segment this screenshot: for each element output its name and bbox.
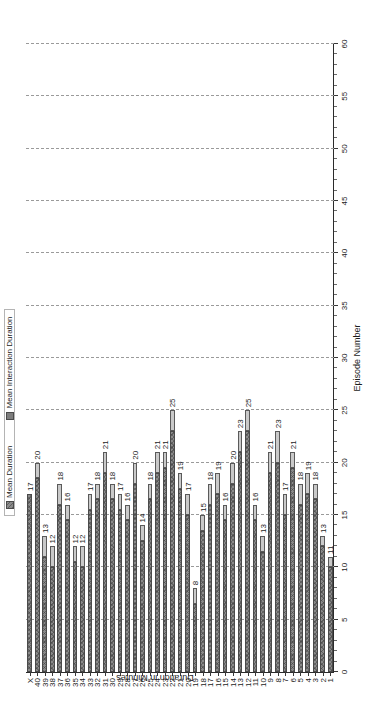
bar-segment-mean-interaction-duration[interactable] — [253, 505, 258, 521]
bar-segment-mean-interaction-duration[interactable] — [42, 536, 47, 557]
bar-segment-mean-duration[interactable] — [73, 562, 78, 672]
bar-segment-mean-interaction-duration[interactable] — [238, 431, 243, 452]
bar-segment-mean-duration[interactable] — [320, 546, 325, 672]
bar-segment-mean-duration[interactable] — [268, 473, 273, 672]
bar-segment-mean-duration[interactable] — [103, 473, 108, 672]
bar-segment-mean-interaction-duration[interactable] — [313, 484, 318, 500]
bar-segment-mean-duration[interactable] — [230, 484, 235, 672]
value-axis-tick-minor — [334, 336, 337, 337]
value-axis-tick-label: 5 — [340, 617, 349, 621]
value-axis-tick-minor — [334, 577, 337, 578]
bar-segment-mean-duration[interactable] — [298, 505, 303, 672]
bar-segment-mean-interaction-duration[interactable] — [193, 588, 198, 604]
bar-segment-mean-interaction-duration[interactable] — [57, 484, 62, 505]
bar-segment-mean-duration[interactable] — [133, 484, 138, 672]
bar-segment-mean-interaction-duration[interactable] — [200, 515, 205, 531]
bar-segment-mean-duration[interactable] — [245, 431, 250, 672]
bar-segment-mean-interaction-duration[interactable] — [133, 463, 138, 484]
bar-segment-mean-interaction-duration[interactable] — [65, 505, 70, 521]
bar-segment-mean-duration[interactable] — [200, 531, 205, 672]
bar-segment-mean-interaction-duration[interactable] — [95, 484, 100, 500]
bar-segment-mean-duration[interactable] — [328, 567, 333, 672]
bar-segment-mean-duration[interactable] — [125, 520, 130, 672]
value-axis-tick-major — [334, 671, 338, 672]
bar-segment-mean-interaction-duration[interactable] — [223, 505, 228, 521]
bar-segment-mean-interaction-duration[interactable] — [125, 505, 130, 521]
bar-segment-mean-interaction-duration[interactable] — [230, 463, 235, 484]
bar-segment-mean-interaction-duration[interactable] — [268, 452, 273, 473]
bar-segment-mean-interaction-duration[interactable] — [50, 546, 55, 567]
bar-segment-mean-interaction-duration[interactable] — [275, 431, 280, 462]
bar-segment-mean-duration[interactable] — [65, 520, 70, 672]
legend-label-mean-duration: Mean Duration — [5, 446, 14, 498]
gridline — [26, 357, 334, 358]
bar-segment-mean-interaction-duration[interactable] — [305, 473, 310, 494]
bar-segment-mean-interaction-duration[interactable] — [88, 494, 93, 510]
bar-segment-mean-interaction-duration[interactable] — [80, 546, 85, 567]
bar-segment-mean-duration[interactable] — [95, 499, 100, 672]
bar-segment-mean-duration[interactable] — [193, 604, 198, 672]
bar-segment-mean-duration[interactable] — [170, 431, 175, 672]
value-axis-tick-major — [334, 43, 338, 44]
category-axis-tick — [285, 672, 286, 676]
value-axis-title: Duration in Minutes — [75, 673, 235, 683]
bar-segment-mean-duration[interactable] — [313, 499, 318, 672]
value-axis-tick-label: 30 — [340, 354, 349, 363]
bar-value-label: 16 — [221, 493, 230, 502]
bar-segment-mean-interaction-duration[interactable] — [320, 536, 325, 546]
bar-segment-mean-interaction-duration[interactable] — [178, 473, 183, 489]
bar-segment-mean-duration[interactable] — [178, 489, 183, 672]
bar-segment-mean-interaction-duration[interactable] — [260, 536, 265, 552]
bar-segment-mean-interaction-duration[interactable] — [185, 494, 190, 515]
bar-segment-mean-duration[interactable] — [118, 510, 123, 672]
bar-segment-mean-duration[interactable] — [88, 510, 93, 672]
bar-segment-mean-duration[interactable] — [57, 505, 62, 672]
bar-segment-mean-duration[interactable] — [260, 552, 265, 672]
bar-segment-mean-duration[interactable] — [238, 452, 243, 672]
bar-value-label: 18 — [206, 472, 215, 481]
category-axis-tick — [52, 672, 53, 676]
bar-segment-mean-duration[interactable] — [148, 499, 153, 672]
bar-segment-mean-interaction-duration[interactable] — [245, 410, 250, 431]
bar-segment-mean-duration[interactable] — [163, 468, 168, 672]
bar-segment-mean-duration[interactable] — [110, 499, 115, 672]
bar-segment-mean-interaction-duration[interactable] — [110, 484, 115, 500]
bar-segment-mean-interaction-duration[interactable] — [290, 452, 295, 468]
bar-segment-mean-duration[interactable] — [305, 494, 310, 672]
bar-segment-mean-duration[interactable] — [215, 494, 220, 672]
bar-segment-mean-duration[interactable] — [283, 515, 288, 672]
gridline — [26, 409, 334, 410]
bar-segment-mean-duration[interactable] — [223, 520, 228, 672]
bar-segment-mean-interaction-duration[interactable] — [328, 557, 333, 567]
bar-segment-mean-duration[interactable] — [27, 494, 32, 672]
bar-segment-mean-duration[interactable] — [185, 515, 190, 672]
bar-segment-mean-interaction-duration[interactable] — [208, 484, 213, 505]
bar-segment-mean-interaction-duration[interactable] — [140, 525, 145, 541]
bar-segment-mean-interaction-duration[interactable] — [118, 494, 123, 510]
bar-segment-mean-interaction-duration[interactable] — [170, 410, 175, 431]
bar-segment-mean-interaction-duration[interactable] — [155, 452, 160, 473]
bar-segment-mean-interaction-duration[interactable] — [73, 546, 78, 562]
value-axis-tick-minor — [334, 399, 337, 400]
bar-segment-mean-duration[interactable] — [253, 520, 258, 672]
bar-segment-mean-interaction-duration[interactable] — [103, 452, 108, 473]
bar-segment-mean-duration[interactable] — [50, 567, 55, 672]
bar-segment-mean-duration[interactable] — [140, 541, 145, 672]
bar-segment-mean-interaction-duration[interactable] — [298, 484, 303, 505]
gridline — [26, 200, 334, 201]
bar-segment-mean-interaction-duration[interactable] — [35, 463, 40, 479]
bar-segment-mean-duration[interactable] — [80, 567, 85, 672]
value-axis-tick-minor — [334, 640, 337, 641]
bar-segment-mean-duration[interactable] — [155, 473, 160, 672]
legend-item-mean-duration: Mean Duration — [5, 446, 14, 509]
bar-segment-mean-duration[interactable] — [208, 505, 213, 672]
bar-segment-mean-interaction-duration[interactable] — [148, 484, 153, 500]
bar-segment-mean-interaction-duration[interactable] — [215, 473, 220, 494]
bar-segment-mean-interaction-duration[interactable] — [283, 494, 288, 515]
bar-segment-mean-duration[interactable] — [42, 557, 47, 672]
bar-segment-mean-duration[interactable] — [35, 478, 40, 672]
bar-segment-mean-duration[interactable] — [290, 468, 295, 672]
bar-segment-mean-interaction-duration[interactable] — [163, 452, 168, 468]
bar-segment-mean-duration[interactable] — [275, 463, 280, 672]
bar-value-label: 16 — [251, 493, 260, 502]
